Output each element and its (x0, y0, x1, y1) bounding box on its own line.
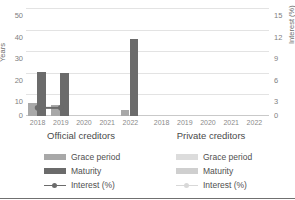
legend-swatch-maturity (176, 168, 198, 174)
legend-item-private-0[interactable]: Grace period (176, 150, 252, 164)
ytick-left-40: 40 (3, 34, 23, 42)
legend-item-official-1[interactable]: Maturity (44, 164, 120, 178)
line-marker-icon (176, 182, 198, 189)
ytick-right-6: 6 (274, 77, 294, 85)
x-axis-ticks-official: 20182019202020212022 (26, 118, 144, 128)
xtick-private-2021: 2021 (220, 118, 243, 127)
panel-title-official: Official creditors (18, 130, 144, 141)
xtick-private-2020: 2020 (196, 118, 219, 127)
xtick-official-2020: 2020 (72, 118, 95, 127)
x-axis-ticks-private: 20182019202020212022 (150, 118, 269, 128)
xtick-official-2021: 2021 (96, 118, 119, 127)
panel-private-creditors (150, 8, 269, 116)
legend-label: Interest (%) (71, 180, 115, 190)
xtick-private-2018: 2018 (150, 118, 173, 127)
ytick-right-0: 0 (274, 112, 294, 120)
panel-official-creditors (26, 8, 144, 116)
ytick-left-20: 20 (3, 77, 23, 85)
legend-swatch-grace-period (44, 154, 66, 160)
legend-item-official-2[interactable]: Interest (%) (44, 178, 120, 192)
ytick-left-10: 10 (3, 98, 23, 106)
panel-title-private: Private creditors (148, 130, 274, 141)
ytick-left-50: 50 (3, 12, 23, 20)
legend-item-official-0[interactable]: Grace period (44, 150, 120, 164)
legend-label: Maturity (71, 166, 101, 176)
ytick-right-3: 3 (274, 98, 294, 106)
legend-label: Grace period (71, 152, 120, 162)
legend-item-private-2[interactable]: Interest (%) (176, 178, 252, 192)
ytick-right-9: 9 (274, 55, 294, 63)
chart-figure: 50 40 30 20 10 0 15 12 9 6 3 0 Years Int… (0, 0, 295, 200)
xtick-private-2019: 2019 (173, 118, 196, 127)
legend-item-private-1[interactable]: Maturity (176, 164, 252, 178)
legend-swatch-maturity (44, 168, 66, 174)
interest-line-official (26, 8, 144, 116)
interest-marker-official-1 (58, 105, 64, 111)
legend-label: Grace period (203, 152, 252, 162)
bottom-divider (0, 198, 295, 199)
y-axis-title-left: Years (0, 43, 7, 62)
line-marker-icon (44, 182, 66, 189)
legend-label: Interest (%) (203, 180, 247, 190)
legend-label: Maturity (203, 166, 233, 176)
y-axis-title-right: Interest (%) (287, 5, 295, 44)
legend-official: Grace periodMaturityInterest (%) (44, 150, 120, 192)
interest-line-private (150, 8, 269, 116)
xtick-private-2022: 2022 (243, 118, 266, 127)
legend-swatch-grace-period (176, 154, 198, 160)
xtick-official-2019: 2019 (49, 118, 72, 127)
xtick-official-2022: 2022 (119, 118, 142, 127)
interest-marker-official-0 (35, 105, 41, 111)
legend-private: Grace periodMaturityInterest (%) (176, 150, 252, 192)
ytick-left-0: 0 (3, 112, 23, 120)
xtick-official-2018: 2018 (26, 118, 49, 127)
